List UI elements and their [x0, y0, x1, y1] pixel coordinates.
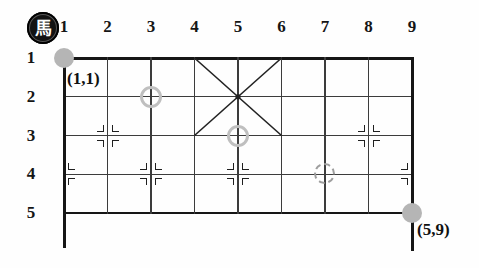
start-coordinate-label: (1,1) [67, 69, 100, 89]
xiangqi-coordinate-diagram: 馬 12345678912345 (1,1) (5,9) [0, 0, 479, 268]
end-coordinate-label: (5,9) [417, 220, 450, 240]
palace-diagonals [0, 0, 479, 268]
diagonal-cross-dot [235, 94, 240, 99]
